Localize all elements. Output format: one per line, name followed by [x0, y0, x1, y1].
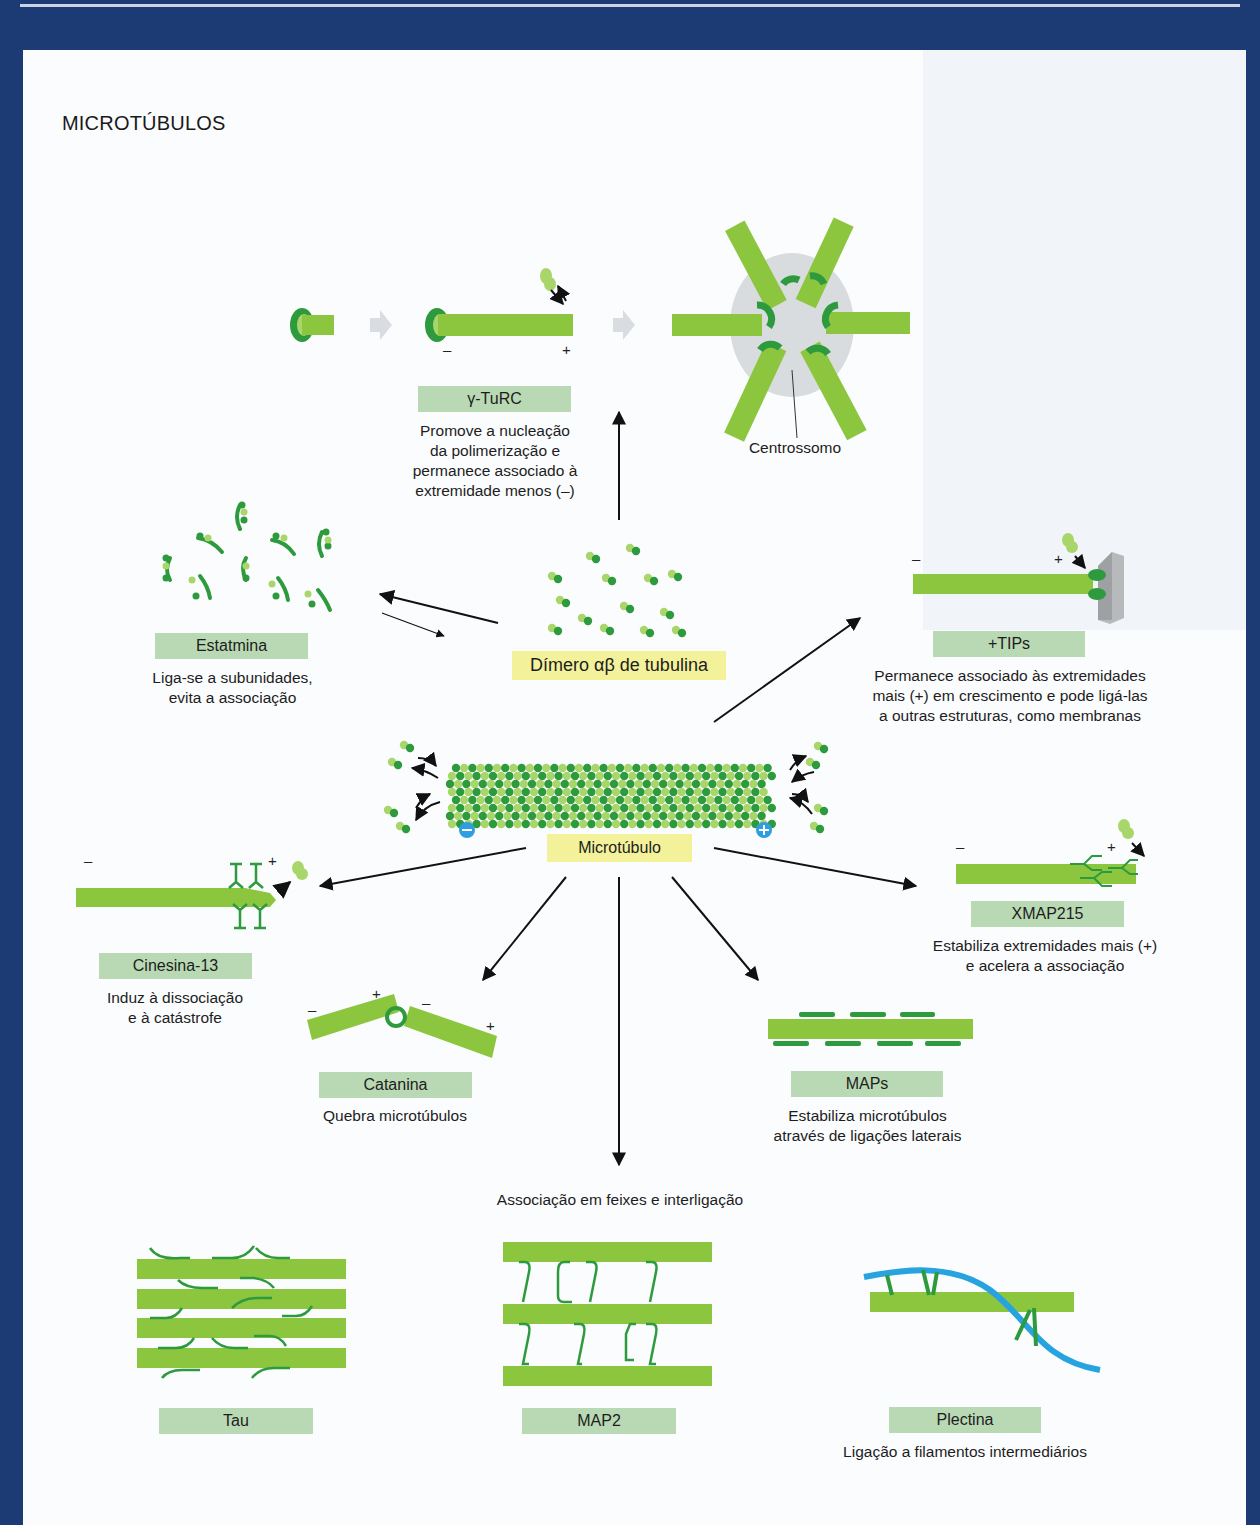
plus-sign: + [562, 341, 571, 358]
map2-label: MAP2 [522, 1408, 676, 1434]
minus-sign: – [84, 852, 92, 869]
stathmin-description: Liga-se a subunidades, evita a associaçã… [120, 668, 345, 708]
minus-sign: – [912, 550, 920, 567]
plus-sign: + [486, 1017, 495, 1034]
maps-label: MAPs [791, 1071, 943, 1097]
step-arrow-icon [370, 310, 392, 340]
kinesin13-illustration [76, 861, 308, 928]
xmap215-label: XMAP215 [971, 901, 1124, 927]
xmap215-description: Estabiliza extremidades mais (+) e acele… [905, 936, 1185, 976]
kinesin13-description: Induz à dissociação e à catástrofe [80, 988, 270, 1028]
free-tubulin-dimers [548, 544, 686, 637]
tips-description: Permanece associado às extremidades mais… [840, 666, 1180, 726]
maps-description: Estabiliza microtúbulos através de ligaç… [745, 1106, 990, 1146]
katanin-description: Quebra microtúbulos [290, 1106, 500, 1126]
minus-sign: – [422, 994, 430, 1011]
map2-illustration [503, 1242, 712, 1386]
diagram-artwork [0, 0, 1260, 1525]
gamma-turc-seed [290, 308, 334, 342]
tips-label: +TIPs [933, 631, 1085, 657]
microtubule-lattice [446, 764, 776, 828]
minus-sign: – [443, 341, 451, 358]
tips-illustration [913, 533, 1124, 624]
plus-sign: + [1107, 838, 1116, 855]
centrosome-label: Centrossomo [720, 438, 870, 458]
gamma-turc-label: γ-TuRC [418, 386, 571, 412]
katanin-label: Catanina [319, 1072, 472, 1098]
kinesin13-label: Cinesina-13 [99, 953, 252, 979]
tau-illustration [137, 1246, 346, 1378]
microtubule-label: Microtúbulo [547, 834, 692, 862]
minus-sign: – [308, 1001, 316, 1018]
plectin-illustration [864, 1270, 1100, 1370]
minus-sign: – [956, 838, 964, 855]
centrosome [672, 217, 910, 441]
tau-label: Tau [159, 1408, 313, 1434]
bundling-heading: Associação em feixes e interligação [440, 1190, 800, 1210]
plus-sign: + [1054, 550, 1063, 567]
stathmin-label: Estatmina [155, 633, 308, 659]
maps-illustration [768, 1012, 973, 1046]
plus-sign: + [268, 852, 277, 869]
step-arrow-icon [613, 310, 635, 340]
plus-sign: + [372, 985, 381, 1002]
plectin-label: Plectina [889, 1407, 1041, 1433]
tubulin-dimer-label: Dímero αβ de tubulina [512, 651, 726, 680]
plectin-description: Ligação a filamentos intermediários [805, 1442, 1125, 1462]
katanin-illustration [307, 994, 497, 1058]
gamma-turc-description: Promove a nucleação da polimerização e p… [380, 421, 610, 501]
growing-microtubule [425, 268, 573, 342]
